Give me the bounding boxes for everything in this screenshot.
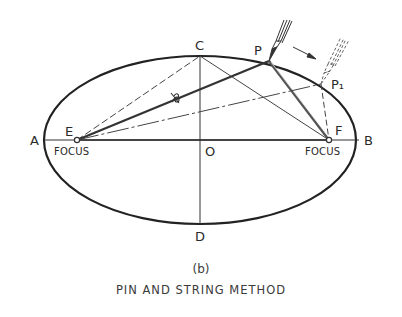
label-p1: P₁ bbox=[331, 77, 344, 92]
label-o: O bbox=[205, 144, 215, 159]
label-b: B bbox=[364, 133, 373, 148]
focus-pin-f bbox=[326, 137, 331, 142]
string-knot-icon bbox=[171, 93, 180, 103]
movement-arrow-icon bbox=[293, 47, 316, 59]
label-e: E bbox=[65, 124, 73, 139]
line-c-f bbox=[200, 56, 329, 140]
focus-label-right: FOCUS bbox=[305, 146, 340, 157]
focus-pin-e bbox=[74, 137, 79, 142]
label-c: C bbox=[195, 38, 204, 53]
label-p: P bbox=[254, 43, 262, 58]
label-d: D bbox=[195, 229, 205, 244]
focus-label-left: FOCUS bbox=[54, 146, 89, 157]
string-p-f bbox=[269, 61, 329, 140]
subfigure-label: (b) bbox=[0, 262, 402, 276]
label-a: A bbox=[30, 133, 39, 148]
dashed-line-e-p1 bbox=[77, 84, 321, 140]
label-f: F bbox=[335, 123, 342, 138]
figure-title: PIN AND STRING METHOD bbox=[0, 283, 402, 297]
pencil-icon bbox=[269, 20, 292, 61]
